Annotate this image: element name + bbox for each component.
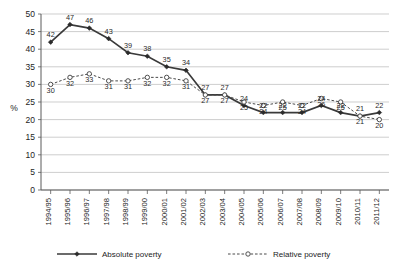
data-label: 35 <box>163 55 171 64</box>
x-tick-label: 2003/04 <box>218 198 227 225</box>
x-tick-label: 2010/11 <box>353 198 362 225</box>
legend-label-absolute-poverty: Absolute poverty <box>102 250 162 259</box>
legend-label-relative-poverty: Relative poverty <box>273 250 330 259</box>
chart-legend: Absolute povertyRelative poverty <box>57 250 330 259</box>
data-label: 27 <box>201 96 209 105</box>
chart-canvas: 05101520253035404550 1994/951995/961996/… <box>0 0 398 272</box>
y-tick-label: 45 <box>26 27 36 37</box>
y-tick-label: 25 <box>26 97 36 107</box>
poverty-trend-chart: 05101520253035404550 1994/951995/961996/… <box>0 0 398 272</box>
y-tick-label: 0 <box>30 185 35 195</box>
data-label: 47 <box>66 13 74 22</box>
data-labels-layer: 4247464339383534272724222222242221223032… <box>47 13 384 130</box>
series-line-absolute-poverty <box>51 25 380 117</box>
series-layer <box>48 22 381 122</box>
x-tick-label: 2009/10 <box>334 198 343 225</box>
x-tick-label: 1997/98 <box>102 198 111 225</box>
data-label: 27 <box>221 96 229 105</box>
data-label: 43 <box>105 27 113 36</box>
data-label: 32 <box>66 79 74 88</box>
x-tick-label: 1995/96 <box>63 198 72 225</box>
data-label: 24 <box>259 107 267 116</box>
x-tick-label: 2002/03 <box>198 198 207 225</box>
y-tick-label: 50 <box>26 9 36 19</box>
y-tick-label: 5 <box>30 167 35 177</box>
x-tick-label: 2007/08 <box>295 198 304 225</box>
y-tick-label: 10 <box>26 150 36 160</box>
data-label: 33 <box>85 75 93 84</box>
y-tick-label: 30 <box>26 79 36 89</box>
x-tick-label: 2011/12 <box>372 198 381 225</box>
data-label: 21 <box>356 117 364 126</box>
x-tick-label: 1998/99 <box>121 198 130 225</box>
data-label: 27 <box>201 83 209 92</box>
x-tick-label: 1996/97 <box>82 198 91 225</box>
data-label: 21 <box>356 104 364 113</box>
data-label: 31 <box>105 82 113 91</box>
data-label: 46 <box>85 16 93 25</box>
data-label: 25 <box>337 103 345 112</box>
y-tick-label: 15 <box>26 132 36 142</box>
data-label: 27 <box>221 83 229 92</box>
data-label: 34 <box>182 58 190 67</box>
x-tick-label: 1994/95 <box>44 198 53 225</box>
y-axis-title: % <box>10 103 18 113</box>
data-label: 31 <box>124 82 132 91</box>
y-tick-label: 20 <box>26 115 36 125</box>
data-label: 24 <box>298 107 306 116</box>
data-label: 25 <box>240 103 248 112</box>
x-tick-label: 2008/09 <box>314 198 323 225</box>
x-tick-label: 2000/01 <box>160 198 169 225</box>
y-tick-label: 35 <box>26 62 36 72</box>
data-label: 24 <box>240 94 248 103</box>
legend-marker-absolute-poverty <box>75 252 80 257</box>
x-tick-label: 2005/06 <box>256 198 265 225</box>
x-tick-label: 2006/07 <box>276 198 285 225</box>
data-point-absolute-poverty <box>377 110 382 115</box>
data-label: 25 <box>279 103 287 112</box>
data-label: 32 <box>143 79 151 88</box>
data-label: 42 <box>47 30 55 39</box>
data-label: 22 <box>375 101 383 110</box>
x-axis-ticks-group: 1994/951995/961996/971997/981998/991999/… <box>44 190 382 225</box>
data-label: 39 <box>124 41 132 50</box>
x-tick-label: 2001/02 <box>179 198 188 225</box>
legend-marker-relative-poverty <box>246 252 250 256</box>
x-tick-label: 1999/00 <box>140 198 149 225</box>
x-tick-label: 2004/05 <box>237 198 246 225</box>
data-label: 32 <box>163 79 171 88</box>
data-label: 31 <box>182 82 190 91</box>
data-label: 38 <box>143 44 151 53</box>
series-line-relative-poverty <box>51 74 380 120</box>
data-label: 20 <box>375 121 383 130</box>
data-label: 26 <box>317 100 325 109</box>
data-label: 30 <box>47 86 55 95</box>
y-axis-ticks-group: 05101520253035404550 <box>26 9 41 195</box>
y-tick-label: 40 <box>26 44 36 54</box>
